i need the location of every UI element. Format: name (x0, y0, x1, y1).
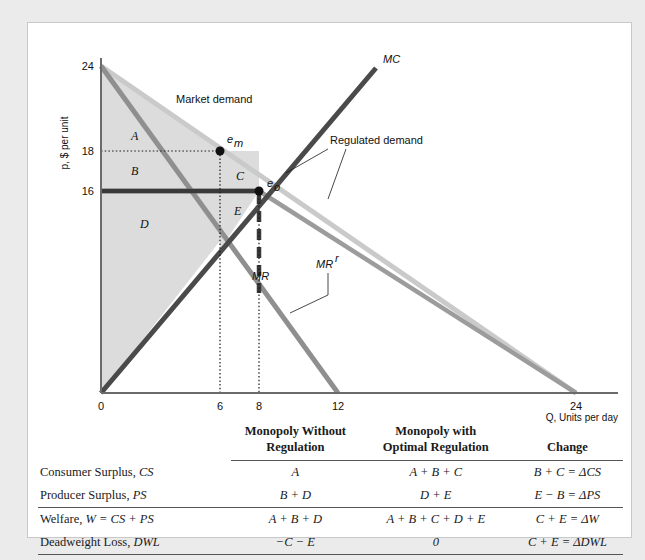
table-row: Consumer Surplus, CS A A + B + C B + C =… (38, 461, 623, 485)
em-base: e (227, 133, 233, 145)
region-label-D: D (139, 217, 149, 231)
y-axis-title: p, $ per unit (59, 116, 70, 169)
region-label-B: B (131, 164, 139, 178)
row-label-consumer-surplus: Consumer Surplus, CS (38, 461, 231, 485)
cell-w-with: A + B + C + D + E (360, 508, 512, 532)
row-label-symbol: W = CS + PS (86, 512, 154, 526)
header-monopoly-with-line2: Optimal Regulation (364, 440, 508, 456)
mc-label: MC (383, 53, 400, 65)
regulated-demand-leader-2 (328, 149, 346, 199)
x-tick-8: 8 (256, 400, 262, 412)
cell-ps-with: D + E (360, 484, 512, 508)
mr-regulated-label: MR r (316, 252, 340, 270)
row-label-text: Producer Surplus, (40, 488, 133, 502)
x-tick-6: 6 (217, 400, 223, 412)
surplus-table: Monopoly Without Regulation Monopoly wit… (38, 421, 623, 555)
eo-subscript: o (274, 181, 280, 193)
row-label-text: Welfare, (40, 512, 86, 526)
cell-ps-without: B + D (231, 484, 360, 508)
regulated-demand-slope (259, 191, 576, 393)
row-label-symbol: PS (133, 488, 147, 502)
header-monopoly-without-line1: Monopoly Without (235, 424, 356, 440)
table-row: Deadweight Loss, DWL −C − E 0 C + E = ΔD… (38, 531, 623, 555)
header-monopoly-without-line2: Regulation (235, 440, 356, 456)
em-subscript: m (234, 137, 243, 149)
shaded-regions (101, 66, 259, 393)
regulated-demand-label: Regulated demand (330, 134, 423, 146)
cell-ps-change: E − B = ΔPS (512, 484, 623, 508)
market-demand-label: Market demand (176, 93, 252, 105)
row-label-symbol: DWL (133, 535, 159, 549)
table-row: Welfare, W = CS + PS A + B + D A + B + C… (38, 508, 623, 532)
economics-chart: 24 18 16 0 6 8 12 24 p, $ per unit Q, Un… (28, 23, 633, 423)
cell-cs-without: A (231, 461, 360, 485)
header-monopoly-without: Monopoly Without Regulation (231, 421, 360, 461)
row-label-symbol: CS (139, 465, 154, 479)
point-em (216, 147, 225, 156)
point-em-label: e m (227, 133, 243, 149)
row-label-producer-surplus: Producer Surplus, PS (38, 484, 231, 508)
point-eo-label: e o (267, 177, 280, 193)
table-row: Producer Surplus, PS B + D D + E E − B =… (38, 484, 623, 508)
row-label-welfare: Welfare, W = CS + PS (38, 508, 231, 532)
y-tick-24: 24 (82, 60, 94, 72)
eo-base: e (267, 177, 273, 189)
x-tick-12: 12 (332, 400, 344, 412)
row-label-text: Deadweight Loss, (40, 535, 133, 549)
cell-w-without: A + B + D (231, 508, 360, 532)
mr-regulated-base: MR (316, 258, 333, 270)
surplus-table-wrapper: Monopoly Without Regulation Monopoly wit… (28, 421, 633, 555)
chart-area: 24 18 16 0 6 8 12 24 p, $ per unit Q, Un… (28, 23, 633, 423)
x-tick-24: 24 (570, 400, 582, 412)
cell-dwl-without: −C − E (231, 531, 360, 555)
header-monopoly-with: Monopoly with Optimal Regulation (360, 421, 512, 461)
cell-w-change: C + E = ΔW (512, 508, 623, 532)
region-label-C: C (236, 169, 245, 183)
header-rowlabel (38, 421, 231, 461)
cell-dwl-change: C + E = ΔDWL (512, 531, 623, 555)
header-change: Change (512, 421, 623, 461)
cell-dwl-with: 0 (360, 531, 512, 555)
point-eo (255, 187, 264, 196)
mr-regulated-leader (290, 273, 328, 313)
mr-label: MR (252, 270, 269, 282)
table-header-row: Monopoly Without Regulation Monopoly wit… (38, 421, 623, 461)
cell-cs-with: A + B + C (360, 461, 512, 485)
region-label-E: E (233, 204, 242, 218)
header-monopoly-with-line1: Monopoly with (364, 424, 508, 440)
region-label-A: A (130, 129, 139, 143)
y-tick-16: 16 (82, 185, 94, 197)
row-label-text: Consumer Surplus, (40, 465, 139, 479)
mr-regulated-superscript: r (335, 252, 340, 264)
figure-panel: 24 18 16 0 6 8 12 24 p, $ per unit Q, Un… (27, 22, 632, 538)
row-label-deadweight-loss: Deadweight Loss, DWL (38, 531, 231, 555)
y-tick-18: 18 (82, 145, 94, 157)
cell-cs-change: B + C = ΔCS (512, 461, 623, 485)
x-tick-0: 0 (98, 400, 104, 412)
